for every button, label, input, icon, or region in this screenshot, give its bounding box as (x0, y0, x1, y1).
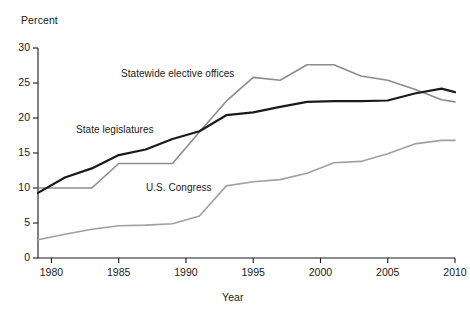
y-tick-label: 20 (12, 111, 30, 123)
series-annotation: Statewide elective offices (121, 68, 234, 79)
x-tick-label: 1985 (99, 266, 139, 278)
x-tick-label: 1990 (166, 266, 206, 278)
y-tick-label: 10 (12, 181, 30, 193)
series-line (38, 140, 455, 239)
series-line (38, 89, 455, 193)
x-tick-label: 2005 (368, 266, 408, 278)
y-tick-label: 15 (12, 146, 30, 158)
y-tick-label: 0 (12, 251, 30, 263)
chart-container: Percent Year 051015202530198019851990199… (0, 0, 470, 319)
x-axis-ticks (51, 258, 455, 263)
y-tick-label: 5 (12, 216, 30, 228)
series-annotation: State legislatures (76, 124, 154, 135)
series-annotation: U.S. Congress (146, 182, 212, 193)
series-lines (38, 65, 455, 240)
x-tick-label: 1980 (31, 266, 71, 278)
x-tick-label: 2000 (300, 266, 340, 278)
y-tick-label: 25 (12, 76, 30, 88)
x-tick-label: 1995 (233, 266, 273, 278)
axis-lines (38, 48, 455, 258)
y-tick-label: 30 (12, 41, 30, 53)
y-axis-ticks (33, 48, 38, 258)
x-tick-label: 2010 (435, 266, 470, 278)
